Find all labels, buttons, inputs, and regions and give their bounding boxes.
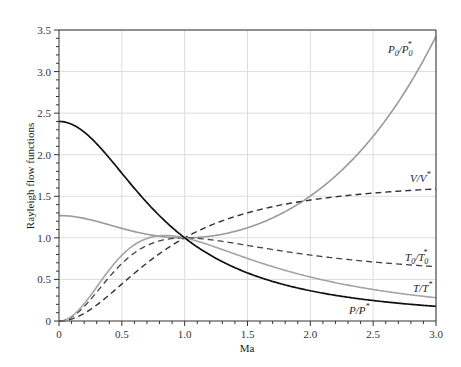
svg-text:V/V*: V/V*: [410, 170, 431, 184]
x-tick-label: 2.5: [366, 328, 380, 340]
svg-text:P/P*: P/P*: [348, 302, 370, 316]
svg-text:T0/T0*: T0/T0*: [405, 248, 428, 266]
x-tick-label: 1.0: [178, 328, 192, 340]
x-tick-label: 0: [56, 328, 62, 340]
label-p-pstar: P/P*: [348, 302, 370, 316]
label-v-vstar: V/V*: [410, 170, 431, 184]
axes: [54, 30, 436, 326]
y-tick-label: 1.5: [37, 190, 51, 202]
label-t-tstar: T/T*: [413, 280, 432, 294]
svg-text:P0/P0*: P0/P0*: [387, 40, 413, 58]
y-tick-label: 3.0: [37, 66, 51, 78]
y-tick-label: 3.5: [37, 24, 51, 36]
x-tick-label: 0.5: [115, 328, 129, 340]
y-tick-label: 2.0: [37, 149, 51, 161]
grid: [59, 30, 436, 321]
y-tick-label: 1.0: [37, 232, 51, 244]
y-tick-label: 0.5: [37, 273, 51, 285]
x-tick-label: 2.0: [303, 328, 317, 340]
x-tick-label: 3.0: [429, 328, 443, 340]
rayleigh-chart: 00.51.01.52.02.53.000.51.01.52.02.53.03.…: [0, 0, 461, 367]
x-axis-title: Ma: [240, 342, 255, 354]
x-tick-label: 1.5: [241, 328, 255, 340]
y-tick-label: 0: [46, 315, 52, 327]
svg-text:T/T*: T/T*: [413, 280, 432, 294]
y-tick-label: 2.5: [37, 107, 51, 119]
label-p0-p0star: P0/P0*: [387, 40, 413, 58]
label-t0-t0star: T0/T0*: [405, 248, 428, 266]
y-axis-title: Rayleigh flow functions: [24, 123, 36, 229]
